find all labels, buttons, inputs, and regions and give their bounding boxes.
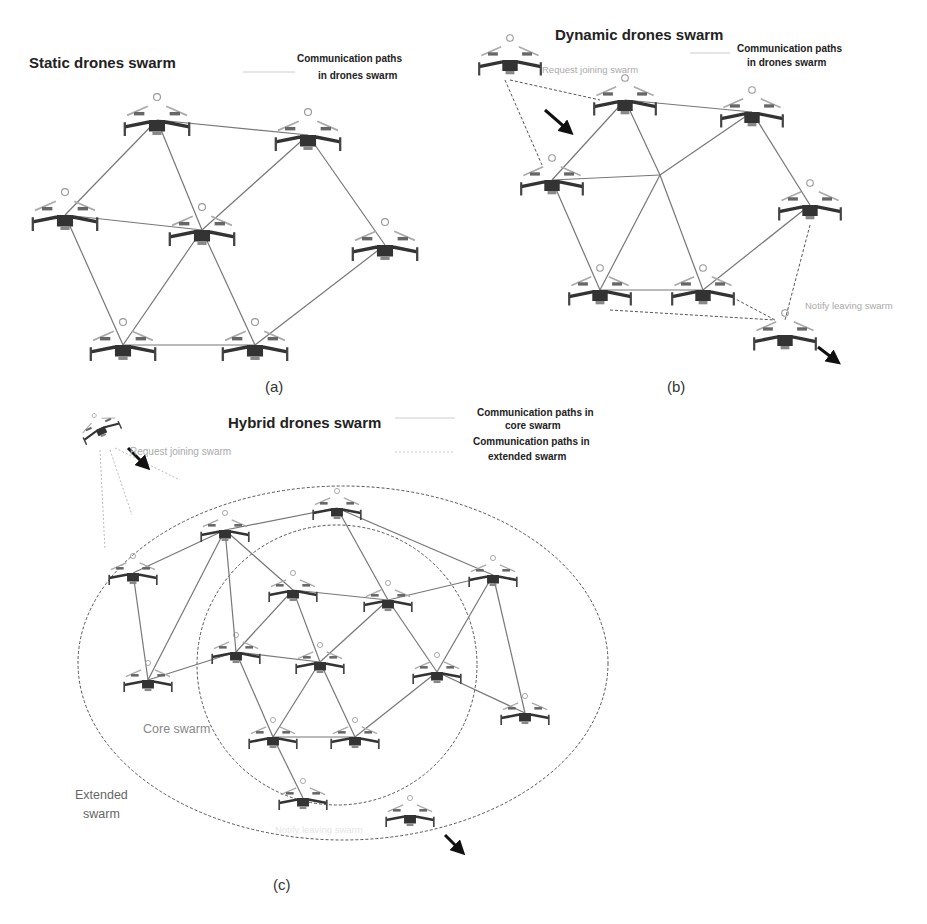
panel-b-title: Dynamic drones swarm: [555, 26, 723, 43]
drone-icon: [364, 580, 412, 611]
communication-path: [703, 205, 810, 290]
panel-c-caption: (c): [273, 876, 291, 893]
communication-path: [660, 175, 703, 290]
extended-swarm-boundary: [78, 486, 608, 840]
join-request-path: [505, 80, 542, 165]
arrow-join-icon: [545, 110, 568, 130]
communication-path: [355, 672, 437, 737]
drone-icon: [353, 219, 417, 262]
communication-path: [123, 230, 202, 345]
leave-notify-path: [610, 310, 775, 320]
drone-icon: [276, 109, 340, 152]
drone-icon: [754, 310, 816, 351]
communication-path: [236, 652, 273, 737]
drone-icon: [672, 265, 734, 306]
communication-path: [752, 112, 810, 205]
panel-a-title: Static drones swarm: [29, 54, 176, 71]
panel-c-legend-core-1: Communication paths in: [477, 407, 594, 418]
drone-icon: [91, 319, 155, 362]
drone-icon: [501, 693, 549, 724]
communication-path: [202, 135, 308, 230]
join-request-path: [510, 80, 600, 100]
panel-c-legend-ext-1: Communication paths in: [473, 436, 590, 447]
panel-b-legend-line1: Communication paths: [737, 43, 842, 54]
communication-path: [202, 230, 255, 345]
panel-c-extended-label-2: swarm: [83, 807, 120, 821]
leave-notify-path: [728, 295, 775, 320]
panel-c-leave-label: Notify leaving swarm: [275, 824, 363, 835]
join-request-path: [100, 450, 105, 550]
drone-icon: [569, 265, 631, 306]
communication-path: [437, 575, 493, 672]
panel-c-core-label: Core swarm: [143, 722, 210, 736]
panel-c-hybrid-swarm: [76, 406, 608, 850]
communication-path: [255, 245, 385, 345]
drone-icon: [521, 155, 583, 196]
panel-c-join-label: Request joining swarm: [130, 446, 231, 457]
panel-c-legend-core-2: core swarm: [505, 420, 561, 431]
communication-path: [65, 215, 123, 345]
communication-path: [320, 662, 355, 737]
communication-path: [437, 672, 525, 713]
communication-path: [157, 120, 202, 230]
drone-icon: [33, 189, 97, 232]
communication-path: [493, 575, 525, 713]
communication-path: [225, 530, 236, 652]
panel-b-caption: (b): [667, 378, 685, 395]
drone-icon: [223, 319, 287, 362]
communication-path: [552, 175, 660, 180]
drone-icon: [279, 778, 327, 809]
communication-path: [600, 175, 660, 290]
drone-icon: [479, 35, 541, 76]
communication-path: [337, 508, 388, 600]
drone-icon: [779, 180, 841, 221]
panel-a-caption: (a): [265, 378, 283, 395]
drone-icon: [109, 553, 157, 584]
arrow-leave-icon: [445, 835, 460, 850]
drone-icon: [125, 94, 189, 137]
drone-icon: [594, 75, 656, 116]
drone-swarm-diagram: Static drones swarm Communication paths …: [0, 0, 927, 924]
communication-path: [552, 180, 600, 290]
communication-path: [660, 112, 752, 175]
panel-a-static-swarm: [33, 94, 417, 362]
panel-b-legend-line2: in drones swarm: [747, 57, 827, 68]
arrow-leave-icon: [818, 347, 835, 360]
panel-a-legend-line2: in drones swarm: [318, 70, 398, 81]
communication-path: [65, 120, 157, 215]
panel-c-extended-label-1: Extended: [75, 788, 128, 802]
drone-icon: [76, 406, 122, 445]
drone-icon: [331, 717, 379, 748]
panel-c-legend-ext-2: extended swarm: [488, 451, 566, 462]
panel-c-title: Hybrid drones swarm: [228, 414, 381, 431]
drone-icon: [721, 87, 783, 128]
panel-a-legend-line1: Communication paths: [297, 53, 402, 64]
drone-icon: [249, 717, 297, 748]
communication-path: [273, 737, 303, 798]
communication-path: [308, 135, 385, 245]
drone-icon: [469, 555, 517, 586]
join-request-path: [110, 450, 132, 515]
drone-icon: [386, 795, 434, 826]
panel-b-join-label: Request joining swarm: [542, 64, 638, 75]
panel-b-leave-label: Notify leaving swarm: [805, 300, 893, 311]
panel-b-dynamic-swarm: [479, 35, 841, 360]
